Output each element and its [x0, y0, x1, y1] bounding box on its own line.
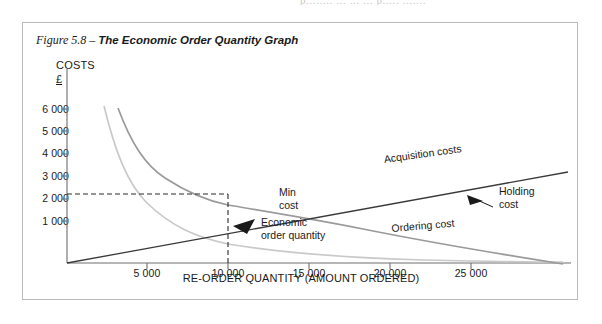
label-min-cost-line2: cost [279, 199, 298, 212]
holding-cost-leader [467, 195, 493, 207]
label-holding-cost-line2: cost [499, 198, 518, 211]
figure-frame: Figure 5.8 – The Economic Order Quantity… [22, 22, 578, 300]
ordering-cost-curve [104, 106, 563, 262]
x-axis-ticks [147, 263, 471, 269]
eoq-plot [23, 23, 579, 301]
figure-page: p........ ... ... ... p..... ....... Fig… [0, 0, 602, 324]
acquisition-cost-curve [118, 108, 563, 264]
holding-cost-arrow-icon [467, 195, 483, 205]
page-bleed-text: p........ ... ... ... p..... ....... [300, 0, 600, 5]
holding-cost-line [67, 172, 568, 263]
label-min-cost-line1: Min [279, 186, 296, 199]
label-holding-cost-line1: Holding [499, 185, 535, 198]
label-eoq-line2: order quantity [261, 229, 325, 242]
y-axis-ticks [62, 109, 67, 221]
label-eoq-line1: Economic [261, 216, 307, 229]
